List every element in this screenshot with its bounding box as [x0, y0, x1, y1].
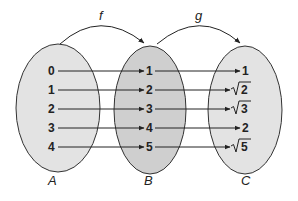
function-mapping-diagram: f g 0 1 2 3 4 1 2 3 4 5 1 2 3 [0, 0, 298, 201]
set-a-element: 3 [48, 121, 55, 135]
set-b-label: B [144, 173, 153, 188]
diagram-svg: f g 0 1 2 3 4 1 2 3 4 5 1 2 3 [0, 0, 298, 201]
set-a-element: 0 [48, 64, 55, 78]
set-b-element: 4 [146, 121, 153, 135]
set-c-element: 2 [242, 121, 249, 135]
set-b-element: 1 [146, 64, 153, 78]
function-g-arc [157, 26, 240, 44]
set-a-element: 2 [48, 102, 55, 116]
set-c-label: C [241, 173, 251, 188]
set-b-element: 3 [146, 102, 153, 116]
set-a-element: 1 [48, 83, 55, 97]
function-f-label: f [99, 8, 104, 23]
set-b-element: 5 [146, 140, 153, 154]
set-a-label: A [47, 173, 57, 188]
radicand: 5 [241, 140, 248, 154]
radicand: 2 [241, 83, 248, 97]
set-a-ellipse [16, 44, 100, 172]
radicand: 3 [241, 102, 248, 116]
function-g-label: g [195, 8, 203, 23]
set-c-element: 1 [242, 64, 249, 78]
set-a-element: 4 [48, 140, 55, 154]
set-b-element: 2 [146, 83, 153, 97]
function-f-arc [60, 26, 144, 44]
